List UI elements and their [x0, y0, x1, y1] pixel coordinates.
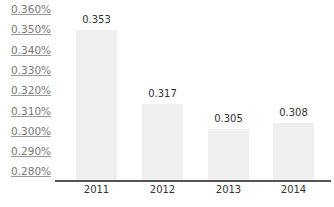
y-tick-label: 0.340%: [11, 44, 51, 56]
x-tick-label: 2014: [264, 184, 324, 195]
bar-2014: [273, 123, 314, 180]
y-tick-label: 0.330%: [11, 64, 51, 76]
y-tick-label: 0.310%: [11, 105, 51, 117]
bar-2013: [208, 129, 249, 180]
y-tick-label: 0.320%: [11, 84, 51, 96]
value-label: 0.353: [67, 14, 127, 25]
y-tick-label: 0.300%: [11, 125, 51, 137]
x-axis-line: [55, 180, 331, 182]
y-tick-label: 0.360%: [11, 3, 51, 15]
x-tick-label: 2012: [133, 184, 193, 195]
y-tick-label: 0.280%: [11, 165, 51, 177]
bar-2012: [142, 104, 183, 180]
x-tick-label: 2013: [199, 184, 259, 195]
value-label: 0.317: [133, 88, 193, 99]
value-label: 0.305: [199, 113, 259, 124]
y-tick-label: 0.350%: [11, 23, 51, 35]
bar-2011: [76, 30, 117, 180]
value-label: 0.308: [264, 107, 324, 118]
y-tick-label: 0.290%: [11, 145, 51, 157]
x-tick-label: 2011: [67, 184, 127, 195]
